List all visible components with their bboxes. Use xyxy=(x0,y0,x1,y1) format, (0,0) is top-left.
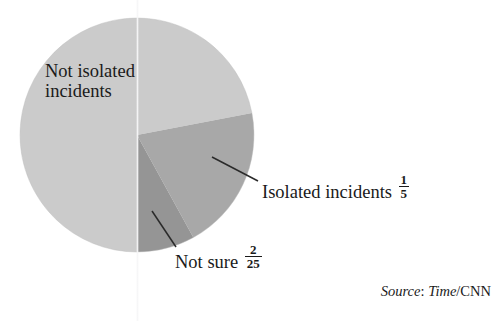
pie-chart-figure: Not isolated incidents Isolated incident… xyxy=(0,0,499,321)
fraction-numerator: 2 xyxy=(245,243,262,256)
source-colon: : xyxy=(420,283,428,299)
pie-label-not-isolated-incidents: Not isolated incidents xyxy=(45,62,135,102)
fraction-denominator: 5 xyxy=(399,186,410,200)
source-suffix: /CNN xyxy=(456,283,491,299)
fraction-numerator: 1 xyxy=(399,173,410,186)
source-note: Source: Time/CNN xyxy=(381,283,491,300)
source-prefix: Source xyxy=(381,283,421,299)
pie-value-isolated-incidents: 1 5 xyxy=(399,173,410,201)
fraction-denominator: 25 xyxy=(245,256,262,270)
pie-label-not-isolated-incidents-line2: incidents xyxy=(45,82,135,102)
pie-label-isolated-incidents: Isolated incidents 1 5 xyxy=(262,170,409,203)
source-publication: Time xyxy=(428,283,456,299)
pie-label-isolated-incidents-text: Isolated incidents xyxy=(262,182,392,202)
pie-label-not-sure: Not sure 2 25 xyxy=(175,240,262,273)
pie-label-not-isolated-incidents-line1: Not isolated xyxy=(45,61,135,81)
pie-label-not-sure-text: Not sure xyxy=(175,252,238,272)
chart-text-layer: Not isolated incidents Isolated incident… xyxy=(0,0,499,321)
pie-value-not-sure: 2 25 xyxy=(245,243,262,271)
